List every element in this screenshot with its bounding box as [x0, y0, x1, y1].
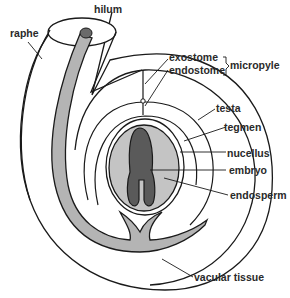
- testa-leader: [198, 109, 215, 120]
- label-vascular-tissue: vacular tissue: [194, 271, 264, 283]
- label-exostome: exostome: [169, 51, 218, 63]
- endostome-leader: [145, 70, 168, 106]
- label-micropyle: micropyle: [230, 59, 280, 71]
- label-testa: testa: [216, 102, 241, 114]
- endostome-pore: [141, 99, 145, 103]
- label-tegmen: tegmen: [224, 121, 261, 133]
- label-hilum: hilum: [94, 3, 122, 15]
- tegmen-leader: [184, 127, 226, 141]
- label-embryo: embryo: [229, 164, 267, 176]
- seed-diagram: hilum raphe exostome endostome micropyle…: [0, 0, 290, 298]
- vascular-tip: [80, 28, 92, 38]
- label-nucellus: nucellus: [227, 147, 270, 159]
- label-endostome: endostome: [169, 64, 225, 76]
- vascular-leader: [162, 259, 193, 277]
- label-raphe: raphe: [10, 27, 39, 39]
- raphe-wall: [21, 30, 50, 200]
- label-endosperm: endosperm: [230, 189, 287, 201]
